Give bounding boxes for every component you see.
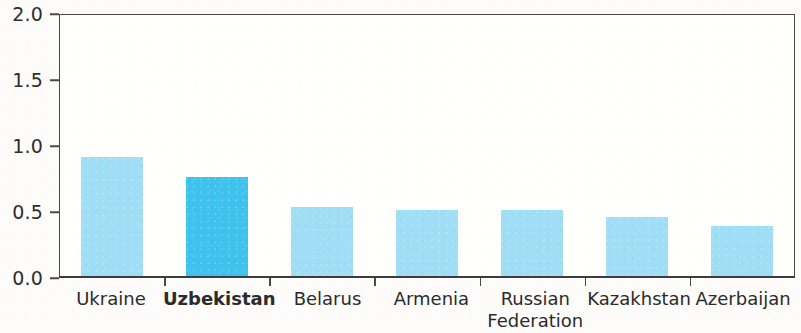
bar-uzbekistan <box>186 177 248 276</box>
x-axis-label-line: Azerbaijan <box>691 288 795 310</box>
x-axis-label-kazakhstan: Kazakhstan <box>587 286 691 333</box>
bar-slot <box>60 15 165 276</box>
x-axis-tick-mark <box>164 278 166 286</box>
bar-slot <box>270 15 375 276</box>
x-axis-label-belarus: Belarus <box>276 286 380 333</box>
bar-slot <box>689 15 794 276</box>
x-axis-label-line: Uzbekistan <box>163 288 276 310</box>
bar-azerbaijan <box>711 226 773 276</box>
y-axis-tick-mark <box>50 13 59 15</box>
x-axis-tick-mark <box>480 278 482 286</box>
y-axis-tick-mark <box>50 277 59 279</box>
x-axis-tick-mark <box>585 278 587 286</box>
x-axis-label-line: Ukraine <box>59 288 163 310</box>
x-axis-label-line: Federation <box>483 310 587 332</box>
bar-ukraine <box>81 157 143 276</box>
x-axis-tick-mark <box>690 278 692 286</box>
y-axis-tick-label: 1.5 <box>12 69 43 91</box>
plot-area <box>59 14 795 278</box>
y-axis-tick-label: 0.5 <box>12 201 43 223</box>
bar-chart-figure: 0.00.51.01.52.0 UkraineUzbekistanBelarus… <box>0 0 801 333</box>
x-axis-label-uzbekistan: Uzbekistan <box>163 286 276 333</box>
bar-slot <box>479 15 584 276</box>
bar-kazakhstan <box>606 217 668 276</box>
bar-slot <box>584 15 689 276</box>
x-axis-label-line: Belarus <box>276 288 380 310</box>
y-axis-tick-mark <box>50 79 59 81</box>
bar-slot <box>375 15 480 276</box>
x-axis-label-line: Armenia <box>379 288 483 310</box>
y-axis-tick-mark <box>50 145 59 147</box>
y-axis-tick-label: 1.0 <box>12 135 43 157</box>
x-axis-label-armenia: Armenia <box>379 286 483 333</box>
y-axis-tick-label: 0.0 <box>12 267 43 289</box>
y-axis-tick-label: 2.0 <box>12 3 43 25</box>
x-axis-tick-mark <box>374 278 376 286</box>
bar-armenia <box>396 210 458 276</box>
bar-slot <box>165 15 270 276</box>
x-axis-labels: UkraineUzbekistanBelarusArmeniaRussianFe… <box>59 286 795 333</box>
bar-russian-federation <box>501 210 563 276</box>
x-axis-label-ukraine: Ukraine <box>59 286 163 333</box>
x-axis-label-russian-federation: RussianFederation <box>483 286 587 333</box>
bar-series <box>60 15 794 276</box>
x-axis-tick-mark <box>269 278 271 286</box>
bar-belarus <box>291 207 353 276</box>
y-axis-tick-mark <box>50 211 59 213</box>
x-axis-label-line: Russian <box>483 288 587 310</box>
y-axis: 0.00.51.01.52.0 <box>0 0 57 333</box>
x-axis-label-azerbaijan: Azerbaijan <box>691 286 795 333</box>
x-axis-label-line: Kazakhstan <box>587 288 691 310</box>
